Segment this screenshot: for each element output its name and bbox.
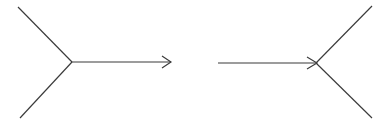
canvas-background bbox=[0, 0, 389, 124]
figure-canvas bbox=[0, 0, 389, 124]
